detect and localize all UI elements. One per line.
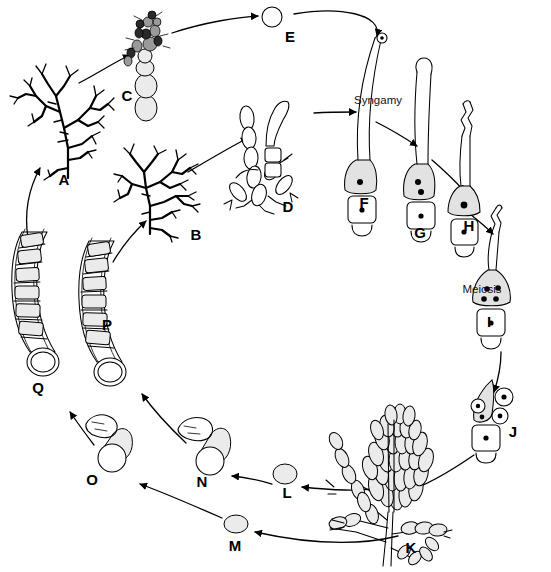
stage-label-D: D [283,198,294,215]
stage-label-M: M [229,537,242,554]
stage-label-O: O [86,471,98,488]
stage-E-spore [262,7,282,27]
stage-label-A: A [59,171,70,188]
stage-Q-filament [12,229,59,376]
stage-label-G: G [414,224,426,241]
arrow-E-to-F [294,11,377,36]
arrow-A-to-C [79,55,130,83]
stage-M-spore [224,515,248,533]
stage-label-Q: Q [32,379,44,396]
stage-label-C: C [122,87,133,104]
process-label-syngamy: Syngamy [354,94,402,106]
stage-P-filament [79,238,126,386]
stage-G-gametangium [404,58,435,242]
stage-label-P: P [102,316,112,333]
stage-A-thallus [10,64,114,180]
arrow-B-to-D [188,138,248,172]
arrow-K-to-M [255,532,398,543]
stage-label-N: N [197,473,208,490]
arrow-P-to-B [113,221,146,262]
arrow-Q-to-A [27,168,41,238]
arrow-D-to-F [314,112,356,113]
arrow-M-to-O [140,484,222,518]
stage-L-spore [273,464,297,484]
stage-label-L: L [282,484,291,501]
diagram-canvas: Syngamy Meiosis A B C D E F G H I J K L … [0,0,551,572]
stage-label-H: H [464,217,475,234]
arrow-L-to-N [232,476,272,484]
arrow-N-to-P [142,394,186,443]
stage-label-K: K [406,539,417,556]
arrow-F-to-G [376,122,417,146]
stage-label-F: F [359,194,368,211]
stage-C-conidiophore [124,11,170,121]
arrow-C-to-E [172,16,258,33]
stage-N-germling [178,417,231,475]
stage-label-I: I [487,313,491,330]
stage-label-E: E [285,28,295,45]
process-label-meiosis: Meiosis [463,283,502,295]
stage-label-J: J [509,423,517,440]
arrow-O-to-Q [70,412,94,445]
stage-label-B: B [191,226,202,243]
arrow-I-to-J [494,352,501,392]
stage-B-thallus [114,144,200,242]
stage-J-releasing-cell [471,380,513,463]
life-cycle-diagram: Syngamy Meiosis A B C D E F G H I J K L … [0,0,551,572]
